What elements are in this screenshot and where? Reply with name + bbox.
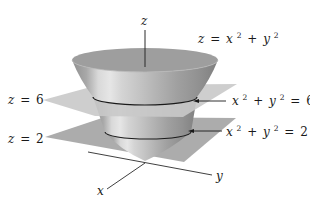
z-axis-label: z [140, 14, 148, 28]
plane-z2-label: z = 2 [7, 132, 44, 146]
plane-z6-label: z = 6 [7, 93, 44, 107]
y-axis-label: y [215, 169, 223, 183]
level-curve-z6-label: x 2 + y 2 = 6 [232, 89, 310, 108]
x-axis-line [107, 163, 145, 189]
level-curve-z2-label: x 2 + y 2 = 2 [226, 120, 308, 139]
x-axis-label: x [97, 184, 104, 198]
surface-equation-label: z = x 2 + y 2 [197, 27, 279, 46]
paraboloid-diagram: z y x z = x 2 + y 2 z = 6 z = 2 x 2 + y … [0, 0, 310, 207]
